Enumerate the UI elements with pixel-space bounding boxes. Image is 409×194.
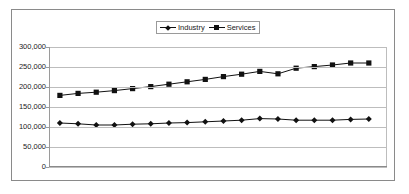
- data-point-diamond: [202, 119, 208, 125]
- data-point-square: [75, 91, 80, 96]
- data-point-square: [257, 69, 262, 74]
- data-point-square: [221, 74, 226, 79]
- gridline: [49, 147, 387, 148]
- square-marker-icon: [214, 25, 219, 30]
- gridline: [49, 47, 387, 48]
- data-point-square: [57, 93, 62, 98]
- y-axis-tick-label: 150,000: [2, 103, 46, 111]
- y-axis-tick-label: 300,000: [2, 43, 46, 51]
- data-point-square: [275, 71, 280, 76]
- data-point-diamond: [184, 120, 190, 126]
- chart-legend: Industry Services: [156, 21, 260, 34]
- data-point-square: [366, 60, 371, 65]
- gridline: [49, 67, 387, 68]
- y-axis-tick-label: 100,000: [2, 123, 46, 131]
- legend-label-industry: Industry: [177, 23, 206, 32]
- gridline: [49, 87, 387, 88]
- series-line-industry: [60, 119, 369, 125]
- y-axis-tick-label: 50,000: [2, 143, 46, 151]
- legend-line-industry: [160, 24, 176, 31]
- y-axis-tick-label: 250,000: [2, 63, 46, 71]
- data-point-diamond: [348, 116, 354, 122]
- data-point-diamond: [329, 117, 335, 123]
- data-point-square: [112, 88, 117, 93]
- data-point-diamond: [366, 116, 372, 122]
- data-point-diamond: [257, 116, 263, 122]
- y-axis-tick-label: 0: [2, 163, 46, 171]
- legend-line-services: [209, 24, 225, 31]
- gridline: [49, 107, 387, 108]
- y-axis-line: [49, 47, 50, 167]
- data-point-diamond: [311, 117, 317, 123]
- plot-right-border: [386, 47, 387, 167]
- y-axis-labels: 050,000100,000150,000200,000250,000300,0…: [0, 0, 46, 194]
- data-point-diamond: [275, 116, 281, 122]
- chart-screenshot: Industry Services 050,000100,000150,0002…: [0, 0, 409, 194]
- data-point-diamond: [148, 121, 154, 127]
- legend-entry-industry: Industry: [160, 23, 206, 32]
- data-point-square: [348, 60, 353, 65]
- data-point-square: [239, 72, 244, 77]
- data-point-square: [185, 79, 190, 84]
- plot-area: [49, 47, 387, 167]
- data-point-diamond: [239, 117, 245, 123]
- legend-entry-services: Services: [209, 23, 257, 32]
- data-point-square: [94, 90, 99, 95]
- diamond-marker-icon: [165, 25, 171, 31]
- data-point-diamond: [166, 120, 172, 126]
- legend-label-services: Services: [226, 23, 257, 32]
- gridline: [49, 127, 387, 128]
- data-point-square: [203, 77, 208, 82]
- data-point-diamond: [293, 117, 299, 123]
- data-point-diamond: [57, 120, 63, 126]
- data-point-diamond: [220, 118, 226, 124]
- data-point-diamond: [75, 121, 81, 127]
- x-axis-line: [49, 166, 387, 167]
- y-axis-tick-label: 200,000: [2, 83, 46, 91]
- gridline: [49, 167, 387, 168]
